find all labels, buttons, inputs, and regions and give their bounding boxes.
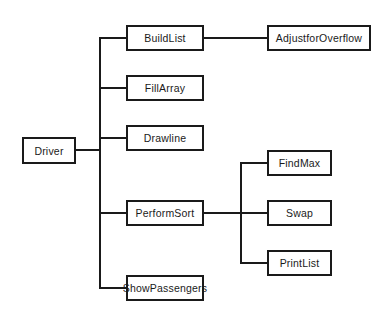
connector-buildlist-adjust — [203, 37, 268, 39]
node-drawline: Drawline — [126, 125, 204, 151]
node-performsort: PerformSort — [126, 200, 204, 226]
node-adjustforoverflow: AdjustforOverflow — [267, 25, 371, 51]
node-fillarray: FillArray — [126, 75, 204, 101]
connector-to-performsort — [99, 212, 127, 214]
structure-chart: Driver BuildList FillArray Drawline Perf… — [0, 0, 387, 322]
connector-trunk-vertical — [99, 37, 101, 289]
connector-to-findmax — [240, 162, 268, 164]
connector-driver-trunk — [75, 149, 101, 151]
node-findmax: FindMax — [267, 150, 332, 176]
node-swap: Swap — [267, 200, 332, 226]
connector-performsort-branch — [203, 212, 241, 214]
connector-to-printlist — [240, 262, 268, 264]
connector-to-swap — [240, 212, 268, 214]
node-buildlist: BuildList — [126, 25, 204, 51]
node-printlist: PrintList — [267, 250, 332, 276]
node-driver: Driver — [22, 137, 76, 164]
node-showpassengers: ShowPassengers — [126, 275, 204, 301]
connector-to-buildlist — [99, 37, 127, 39]
connector-to-drawline — [99, 137, 127, 139]
connector-to-fillarray — [99, 87, 127, 89]
